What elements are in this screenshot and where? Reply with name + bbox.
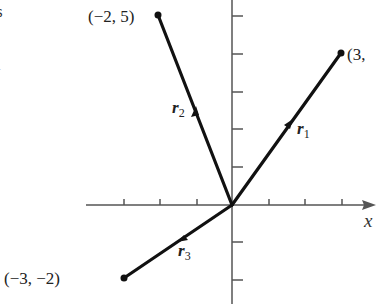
vector-label-r3: r3 (178, 241, 191, 263)
y-axis (232, 0, 243, 304)
x-axis (86, 199, 368, 205)
point-label-r1: (3, (347, 45, 365, 64)
point-label-r3: (−3, −2) (4, 269, 60, 288)
x-axis-arrow-icon (362, 200, 376, 210)
vector-r1 (232, 53, 341, 205)
vector-diagram: s l (0, 0, 376, 304)
vector-label-r1: r1 (297, 119, 310, 141)
x-axis-label: x (363, 210, 373, 231)
vector-label-r2: r2 (172, 98, 185, 120)
point-r2-tip (155, 12, 162, 19)
point-r3-tip (121, 275, 128, 282)
coordinate-plane: (−2, 5) (3, (−3, −2) r1 r2 r3 x (0, 0, 376, 304)
point-label-r2: (−2, 5) (88, 7, 134, 26)
point-r1-tip (338, 50, 345, 57)
